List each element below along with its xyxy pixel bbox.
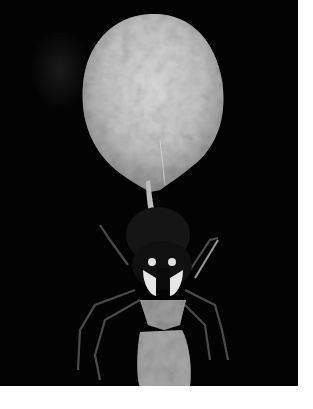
background-shadow — [30, 30, 90, 110]
egg-sac — [83, 14, 224, 226]
spider-body — [126, 207, 192, 386]
spider-with-egg-sac-illustration — [0, 0, 298, 386]
photograph — [0, 0, 298, 386]
